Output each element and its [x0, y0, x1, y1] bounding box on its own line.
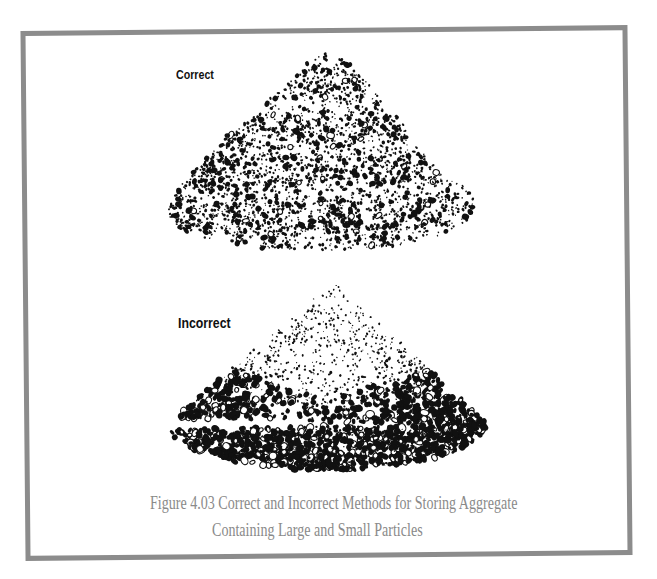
- figure-caption-line-1: Figure 4.03 Correct and Incorrect Method…: [150, 492, 517, 514]
- incorrect-label: Incorrect: [178, 314, 231, 331]
- correct-label: Correct: [176, 67, 214, 82]
- figure-caption-line-2: Containing Large and Small Particles: [212, 519, 423, 541]
- correct-stockpile-illustration: [168, 52, 476, 252]
